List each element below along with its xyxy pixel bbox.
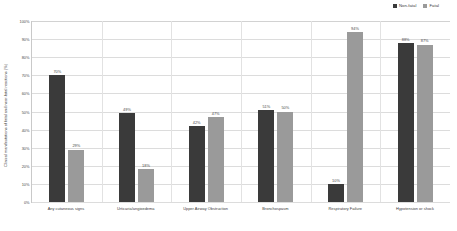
bar[interactable]: 29%: [68, 150, 84, 202]
bar[interactable]: 47%: [208, 117, 224, 202]
bar-group: 70%29%: [32, 21, 102, 202]
x-tick-label: Upper Airway Obstruction: [171, 206, 241, 211]
bar-value-label: 49%: [123, 107, 131, 112]
bar[interactable]: 50%: [277, 112, 293, 203]
bar[interactable]: 10%: [328, 184, 344, 202]
x-tick-label: Hypotension or shock: [380, 206, 450, 211]
x-tick-label: Bronchospasm: [240, 206, 310, 211]
bar-value-label: 51%: [262, 104, 270, 109]
y-axis-title: Clinical manifestations of fatal and nea…: [1, 0, 10, 231]
bar-chart: Non-fatal Fatal Clinical manifestations …: [0, 0, 457, 231]
bar[interactable]: 42%: [189, 126, 205, 202]
x-tick-label: Urticaria/angioedema: [101, 206, 171, 211]
y-tick-label: 70%: [22, 73, 30, 78]
bar-value-label: 10%: [332, 178, 340, 183]
y-tick-label: 40%: [22, 127, 30, 132]
bar-value-label: 87%: [421, 38, 429, 43]
bar-value-label: 94%: [351, 26, 359, 31]
bar[interactable]: 70%: [49, 75, 65, 202]
gridline: [32, 202, 450, 203]
bar[interactable]: 49%: [119, 113, 135, 202]
bar-group: 10%94%: [311, 21, 381, 202]
bar[interactable]: 88%: [398, 43, 414, 202]
legend-entry-non-fatal: Non-fatal: [393, 3, 416, 8]
y-tick-label: 30%: [22, 145, 30, 150]
bar[interactable]: 94%: [347, 32, 363, 202]
y-tick-label: 90%: [22, 37, 30, 42]
legend-label-non-fatal: Non-fatal: [399, 3, 416, 8]
chart-legend: Non-fatal Fatal: [393, 3, 439, 8]
y-tick-label: 20%: [22, 163, 30, 168]
y-tick-label: 100%: [20, 19, 30, 24]
y-axis-title-text: Clinical manifestations of fatal and nea…: [3, 64, 8, 167]
bar[interactable]: 18%: [138, 169, 154, 202]
legend-swatch-non-fatal: [393, 4, 397, 8]
x-axis-labels: Any cutaneous signsUrticaria/angioedemaU…: [31, 206, 450, 211]
bar-value-label: 29%: [72, 143, 80, 148]
y-tick-label: 50%: [22, 109, 30, 114]
x-tick-label: Any cutaneous signs: [31, 206, 101, 211]
bar-group: 51%50%: [241, 21, 311, 202]
legend-entry-fatal: Fatal: [423, 3, 439, 8]
bar[interactable]: 87%: [417, 45, 433, 202]
bar[interactable]: 51%: [258, 110, 274, 202]
bar-group: 88%87%: [380, 21, 450, 202]
bar-value-label: 42%: [193, 120, 201, 125]
bar-value-label: 18%: [142, 163, 150, 168]
bar-group: 42%47%: [171, 21, 241, 202]
plot-area: 100%90%80%70%60%50%40%30%20%10%0% 70%29%…: [31, 21, 450, 203]
bar-value-label: 47%: [212, 111, 220, 116]
bar-group: 49%18%: [102, 21, 172, 202]
bar-value-label: 70%: [53, 69, 61, 74]
bar-value-label: 88%: [402, 37, 410, 42]
bar-groups: 70%29%49%18%42%47%51%50%10%94%88%87%: [32, 21, 450, 202]
legend-label-fatal: Fatal: [429, 3, 439, 8]
legend-swatch-fatal: [423, 4, 427, 8]
y-tick-label: 10%: [22, 181, 30, 186]
bar-value-label: 50%: [281, 105, 289, 110]
x-tick-label: Respiratory Failure: [310, 206, 380, 211]
y-tick-label: 60%: [22, 91, 30, 96]
y-tick-label: 0%: [24, 200, 30, 205]
y-tick-label: 80%: [22, 55, 30, 60]
